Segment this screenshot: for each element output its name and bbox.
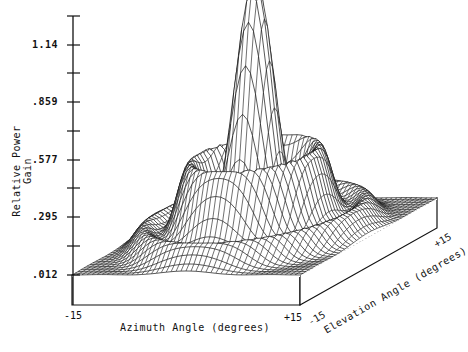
surface-plot [0,0,468,352]
base-front-face [72,275,300,305]
x-tick-max: +15 [284,312,302,323]
chart-root: 1.14 .859 .577 .295 .012 Relative Power … [0,0,468,352]
y-axis-label: Relative Power Gain [11,111,33,231]
x-tick-min: -15 [64,310,82,321]
y-tick-label: .012 [18,269,58,280]
y-tick-label: 1.14 [18,39,58,50]
y-tick-label: .859 [18,96,58,107]
x-axis-label: Azimuth Angle (degrees) [120,322,270,333]
